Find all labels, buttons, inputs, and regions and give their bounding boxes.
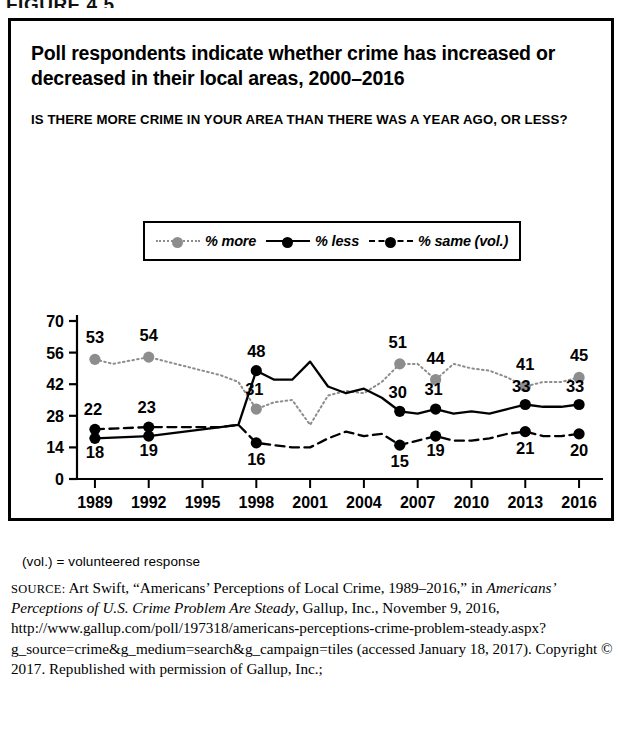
x-tick-label: 2007 [400,494,436,511]
figure-number: FIGURE 4.5 [6,0,114,8]
more-series-key-icon [156,235,200,247]
data-point-marker [251,403,262,414]
data-point-marker [573,399,584,410]
data-point-label: 51 [389,333,407,351]
legend-label-less: % less [315,233,359,249]
x-tick-label: 1992 [131,494,167,511]
data-point-label: 15 [391,452,409,470]
legend-item-same[interactable]: % same (vol.) [369,233,508,249]
same-series-key-icon [369,235,413,247]
source-citation: SOURCE: Art Swift, “Americans’ Perceptio… [11,578,615,679]
legend-label-more: % more [205,233,256,249]
data-point-marker [430,431,441,442]
volunteered-response-note: (vol.) = volunteered response [22,554,200,569]
data-point-marker [394,358,405,369]
legend-item-more[interactable]: % more [156,233,256,249]
data-point-label: 44 [426,349,445,367]
data-point-label: 18 [86,443,104,461]
legend-item-less[interactable]: % less [266,233,359,249]
x-tick-label: 2001 [292,494,328,511]
data-point-label: 16 [247,450,265,468]
data-point-label: 41 [516,355,534,373]
data-point-marker [520,399,531,410]
less-series-key-icon [266,235,310,247]
data-point-label: 48 [247,342,265,360]
data-point-marker [143,352,154,363]
y-tick-label: 70 [46,313,64,330]
y-tick-label: 42 [46,376,64,393]
source-label: SOURCE: [11,582,65,596]
y-tick-label: 28 [46,408,64,425]
data-point-label: 45 [570,346,588,364]
y-tick-label: 0 [55,471,64,488]
source-text-before: Art Swift, “Americans’ Perceptions of Lo… [65,579,486,596]
data-point-marker [394,406,405,417]
data-point-marker [251,365,262,376]
x-tick-label: 1989 [77,494,113,511]
legend-label-same: % same (vol.) [418,233,508,249]
figure-frame: Poll respondents indicate whether crime … [8,18,614,521]
page-title: Poll respondents indicate whether crime … [31,41,597,91]
data-point-marker [89,424,100,435]
chart-svg: 0142842567019891992199519982001200420072… [25,291,605,516]
x-tick-label: 2013 [507,494,543,511]
data-point-label: 23 [138,398,156,416]
data-point-label: 33 [512,377,530,395]
data-point-label: 22 [84,400,102,418]
x-tick-label: 2004 [346,494,382,511]
x-tick-label: 2016 [561,494,597,511]
data-point-label: 30 [389,383,407,401]
data-point-marker [520,426,531,437]
chart-legend: % more % less % same (vol.) [143,221,521,261]
line-chart-plot: 0142842567019891992199519982001200420072… [25,291,605,516]
x-tick-label: 2010 [454,494,490,511]
y-tick-label: 56 [46,345,64,362]
data-point-marker [89,354,100,365]
chart-question-subtitle: IS THERE MORE CRIME IN YOUR AREA THAN TH… [31,111,597,129]
series-line-samevol [95,425,579,448]
data-point-marker [573,428,584,439]
data-point-label: 19 [426,441,444,459]
data-point-marker [430,403,441,414]
data-point-marker [251,437,262,448]
data-point-marker [394,440,405,451]
x-tick-label: 1998 [239,494,275,511]
chart-axes: 0142842567019891992199519982001200420072… [46,313,603,511]
data-point-label: 31 [424,380,442,398]
x-tick-label: 1995 [185,494,221,511]
data-point-label: 33 [566,377,584,395]
data-point-label: 21 [516,439,534,457]
y-tick-label: 14 [46,439,64,456]
chart-point-labels: 5354315144414518194830313333222316151921… [84,326,588,470]
data-point-marker [143,421,154,432]
data-point-label: 31 [245,380,263,398]
data-point-label: 20 [570,441,588,459]
data-point-label: 54 [140,326,159,344]
chart-series-group [89,352,584,451]
data-point-label: 19 [140,441,158,459]
figure-page: FIGURE 4.5 Poll respondents indicate whe… [0,0,622,742]
data-point-label: 53 [86,328,104,346]
